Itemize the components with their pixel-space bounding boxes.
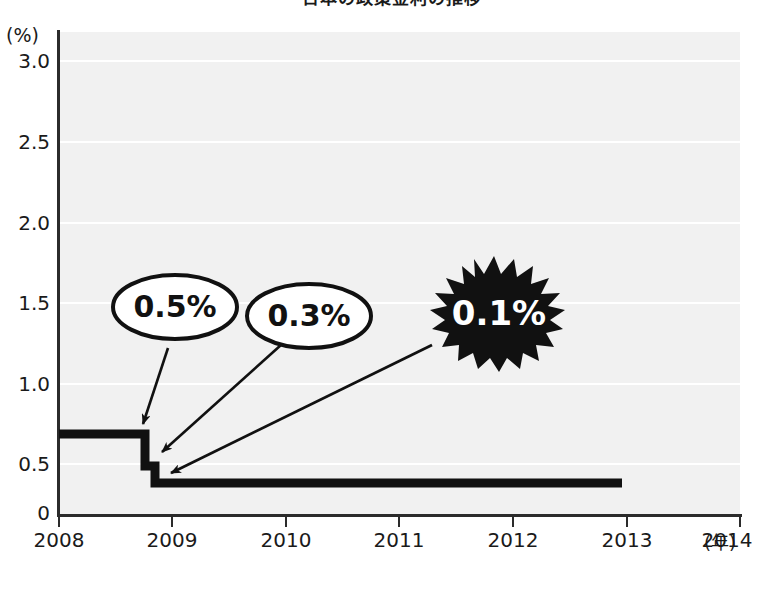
series-step-line	[59, 434, 622, 483]
callout-label-0-3: 0.3%	[247, 298, 371, 333]
leader-line-0-5	[143, 348, 168, 424]
callout-label-0-1: 0.1%	[432, 293, 566, 333]
leader-line-0-3	[162, 345, 281, 452]
chart-root: 日本の政策金利の推移 (%) 3.0 2.5 2.0 1.5 1.0 0.5 0…	[0, 0, 783, 589]
callout-label-0-5: 0.5%	[113, 289, 237, 324]
